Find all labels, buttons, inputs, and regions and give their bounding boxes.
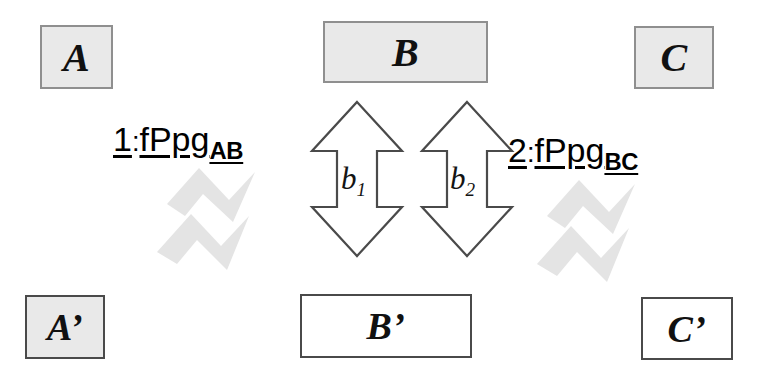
relation-label-1: 1:fPpgAB xyxy=(113,122,243,163)
node-a[interactable]: A xyxy=(40,25,113,89)
relation-label-2-number: 2 xyxy=(508,131,527,169)
arrow-b2-label: b2 xyxy=(450,163,475,199)
relation-label-2-subscript: BC xyxy=(604,148,638,175)
node-c[interactable]: C xyxy=(634,26,714,89)
gray-chevron-arrow-right-icon xyxy=(535,172,685,312)
node-c-prime-label: C’ xyxy=(668,307,707,351)
node-a-prime-label: A’ xyxy=(47,305,83,349)
arrow-b2-base: b xyxy=(450,161,466,196)
node-b-prime-label: B’ xyxy=(367,304,406,348)
relation-label-1-body: fPpg xyxy=(139,120,209,158)
arrow-b1-subscript: 1 xyxy=(357,179,367,200)
node-b-prime[interactable]: B’ xyxy=(300,294,472,358)
node-a-label: A xyxy=(63,34,90,81)
arrow-b2-subscript: 2 xyxy=(466,179,476,200)
relation-label-2-body: fPpg xyxy=(534,131,604,169)
node-b[interactable]: B xyxy=(323,21,488,83)
relation-label-2: 2:fPpgBC xyxy=(508,133,638,174)
arrow-b1-label: b1 xyxy=(341,163,366,199)
node-a-prime[interactable]: A’ xyxy=(25,295,105,359)
arrow-b1-base: b xyxy=(341,161,357,196)
relation-label-1-number: 1 xyxy=(113,120,132,158)
relation-label-1-subscript: AB xyxy=(209,137,243,164)
node-c-label: C xyxy=(660,34,687,81)
diagram-canvas: A B C A’ B’ C’ xyxy=(0,0,769,383)
node-b-label: B xyxy=(392,29,419,76)
gray-chevron-arrow-left-icon xyxy=(155,160,305,300)
